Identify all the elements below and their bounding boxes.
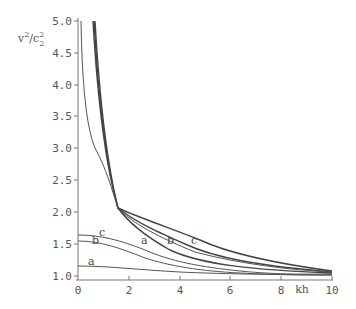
svg-text:3.5: 3.5 bbox=[52, 110, 72, 123]
svg-text:4: 4 bbox=[177, 284, 184, 297]
svg-text:6: 6 bbox=[227, 284, 234, 297]
svg-text:2.0: 2.0 bbox=[52, 206, 72, 219]
svg-text:4.0: 4.0 bbox=[52, 79, 72, 92]
svg-text:1.0: 1.0 bbox=[52, 270, 72, 283]
svg-text:1.5: 1.5 bbox=[52, 238, 72, 251]
x-axis-label: kh bbox=[295, 283, 309, 296]
curve-c-upper bbox=[95, 21, 332, 271]
y-axis-label: v2/c22 bbox=[17, 30, 44, 48]
svg-text:a: a bbox=[141, 234, 148, 247]
y-tick-labels: 5.0 4.5 4.0 3.5 3.0 2.5 2.0 1.5 1.0 bbox=[52, 15, 72, 283]
svg-text:2: 2 bbox=[126, 284, 133, 297]
svg-text:10: 10 bbox=[325, 284, 338, 297]
x-ticks bbox=[129, 276, 332, 280]
svg-text:a: a bbox=[88, 255, 95, 268]
svg-text:4.5: 4.5 bbox=[52, 47, 72, 60]
chart-canvas: v2/c22 5.0 4.5 4.0 3.5 3.0 2.5 2.0 1.5 1… bbox=[0, 0, 356, 309]
svg-text:8: 8 bbox=[278, 284, 285, 297]
svg-text:2.5: 2.5 bbox=[52, 174, 72, 187]
svg-text:c: c bbox=[99, 226, 105, 239]
svg-text:b: b bbox=[167, 234, 174, 247]
y-ticks bbox=[74, 21, 78, 276]
curve-b-upper bbox=[94, 21, 332, 272]
svg-text:5.0: 5.0 bbox=[52, 15, 72, 28]
svg-text:0: 0 bbox=[75, 284, 82, 297]
svg-text:c: c bbox=[191, 234, 197, 247]
curve-thin-limit bbox=[81, 21, 332, 272]
curve-a-upper bbox=[93, 21, 332, 273]
svg-text:3.0: 3.0 bbox=[52, 142, 72, 155]
curve-b-lower bbox=[78, 241, 332, 275]
svg-text:b: b bbox=[92, 234, 99, 247]
